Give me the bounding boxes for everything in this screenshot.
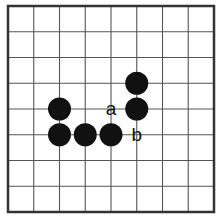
board-diagram: ab xyxy=(0,0,223,217)
black-stone xyxy=(125,98,148,121)
point-label-a: a xyxy=(106,98,117,119)
black-stone xyxy=(48,98,71,121)
point-label-b: b xyxy=(131,124,142,145)
black-stone xyxy=(100,123,123,146)
black-stone xyxy=(125,72,148,95)
black-stone xyxy=(74,123,97,146)
black-stone xyxy=(48,123,71,146)
